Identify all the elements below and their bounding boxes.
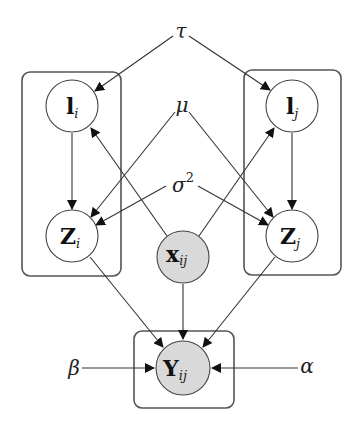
node-l-j: lj [266,80,318,132]
edge-mu-zj [189,112,273,217]
node-x-ij: xij [157,231,209,283]
edge-sigma-zj [198,186,268,225]
param-tau: τ [175,19,187,43]
node-y-ij: Yij [156,341,210,395]
edge-xij-lj [199,128,274,236]
node-z-i: Zi [46,210,98,262]
edge-xij-li [91,128,167,236]
edge-tau-lj [189,36,270,90]
edge-mu-zi [91,112,175,217]
param-mu: μ [176,93,189,117]
edge-zi-yij [90,257,163,347]
node-z-j: Zj [266,210,318,262]
param-sigma-squared: σ2 [172,170,194,197]
sigma-superscript: 2 [186,170,194,185]
param-alpha: α [300,354,314,378]
param-beta: β [67,356,80,380]
edge-tau-li [95,36,173,91]
node-l-i: li [46,80,98,132]
graphical-model-diagram: τ μ σ2 β α li Zi lj Zj xij [0,0,361,428]
edge-zj-yij [203,257,275,347]
